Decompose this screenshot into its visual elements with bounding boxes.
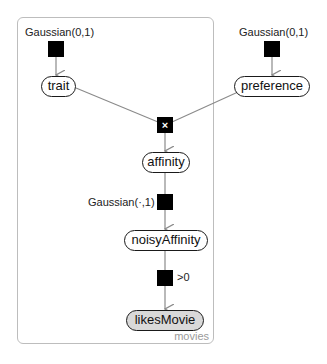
variable-preference[interactable]: preference	[234, 76, 310, 97]
factor-label-threshold: >0	[177, 271, 190, 283]
factor-preference-prior[interactable]	[264, 41, 280, 57]
factor-product[interactable]: ×	[157, 117, 173, 133]
variable-likes-movie[interactable]: likesMovie	[126, 310, 204, 331]
factor-label-preference-prior: Gaussian(0,1)	[239, 26, 308, 38]
factor-label-trait-prior: Gaussian(0,1)	[25, 26, 94, 38]
variable-trait[interactable]: trait	[41, 76, 76, 97]
edge-trait-to-product	[76, 88, 158, 122]
factor-noise[interactable]	[157, 194, 173, 210]
variable-affinity[interactable]: affinity	[142, 152, 190, 173]
factor-label-noise: Gaussian(·,1)	[88, 196, 155, 208]
factor-trait-prior[interactable]	[48, 41, 64, 57]
edge-preference-to-product	[172, 92, 238, 122]
factor-graph: movies Gaussian(0,1) Gaussian(0,1) × Gau…	[0, 0, 327, 364]
variable-noisy-affinity[interactable]: noisyAffinity	[124, 230, 208, 251]
factor-threshold[interactable]	[157, 270, 173, 286]
